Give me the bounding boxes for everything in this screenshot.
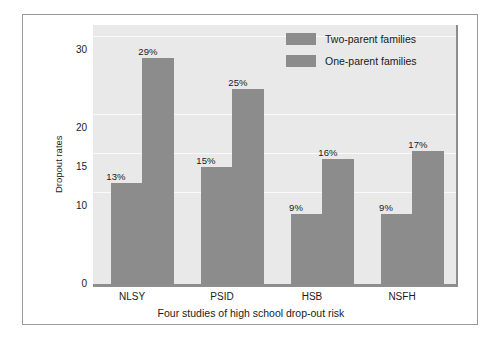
y-tick-0: 0 bbox=[61, 278, 87, 289]
figure-frame: 13% 29% 15% 25% 9% 16% 9% 17% 30 20 15 1… bbox=[22, 14, 478, 325]
legend-item-one-parent: One-parent families bbox=[286, 51, 417, 71]
bar-value-label: 25% bbox=[218, 77, 258, 88]
chart-legend: Two-parent families One-parent families bbox=[286, 29, 417, 73]
bar-value-label: 16% bbox=[308, 147, 348, 158]
y-tick-30: 30 bbox=[61, 44, 87, 55]
y-tick-10: 10 bbox=[61, 200, 87, 211]
bar-psid-two-parent bbox=[201, 167, 232, 284]
x-axis-title: Four studies of high school drop-out ris… bbox=[23, 307, 479, 319]
y-tick-20: 20 bbox=[61, 122, 87, 133]
y-tick-15: 15 bbox=[61, 161, 87, 172]
bar-nlsy-one-parent bbox=[142, 58, 174, 284]
bar-chart: 13% 29% 15% 25% 9% 16% 9% 17% 30 20 15 1… bbox=[23, 15, 479, 326]
bar-value-label: 13% bbox=[96, 171, 136, 182]
legend-swatch-icon bbox=[286, 33, 316, 45]
bar-value-label: 15% bbox=[186, 155, 226, 166]
legend-label: Two-parent families bbox=[325, 33, 416, 45]
bar-hsb-two-parent bbox=[291, 214, 322, 284]
x-axis-line bbox=[93, 284, 458, 287]
bar-value-label: 9% bbox=[276, 202, 316, 213]
y-axis-title: Dropout rates bbox=[53, 135, 64, 193]
x-tick-nlsy: NLSY bbox=[102, 291, 162, 302]
legend-label: One-parent families bbox=[325, 55, 417, 67]
bar-psid-one-parent bbox=[232, 89, 264, 284]
bar-value-label: 29% bbox=[128, 46, 168, 57]
x-tick-psid: PSID bbox=[192, 291, 252, 302]
bar-value-label: 9% bbox=[366, 202, 406, 213]
x-tick-hsb: HSB bbox=[282, 291, 342, 302]
legend-swatch-icon bbox=[286, 55, 316, 67]
legend-item-two-parent: Two-parent families bbox=[286, 29, 417, 49]
bar-hsb-one-parent bbox=[322, 159, 354, 284]
bar-value-label: 17% bbox=[398, 139, 438, 150]
x-tick-nsfh: NSFH bbox=[372, 291, 432, 302]
bar-nsfh-one-parent bbox=[412, 151, 444, 284]
bar-nlsy-two-parent bbox=[111, 183, 142, 284]
bar-nsfh-two-parent bbox=[381, 214, 412, 284]
